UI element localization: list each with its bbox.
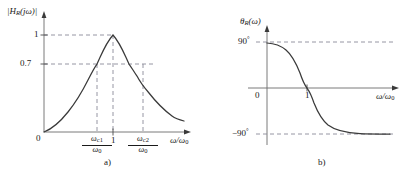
y-axis-label-a-pre: |H (7, 6, 16, 16)
y-tick-label-plus90-b: 90° (238, 36, 250, 46)
x-axis-label-a-sub: 0 (185, 138, 188, 145)
y-tick-label-minus90-text-b: −90 (232, 128, 246, 138)
degree-symbol-minus90-b: ° (246, 127, 249, 134)
curve-phase-b (267, 43, 390, 134)
x-tick-label-wc1-den-a: ω0 (82, 146, 112, 156)
axis-x-a (44, 130, 191, 135)
y-tick-label-plus90-text-b: 90 (238, 36, 247, 46)
x-tick-label-1-a: 1 (111, 136, 116, 145)
x-axis-label-a-main: ω/ω (170, 135, 185, 145)
panel-caption-a: a) (104, 157, 111, 167)
x-axis-label-a: ω/ω0 (170, 136, 188, 146)
x-tick-label-wc1-a: ωc1 ω0 (82, 135, 112, 155)
panel-caption-b: b) (318, 157, 326, 167)
x-tick-label-1-b: 1 (305, 91, 310, 100)
y-axis-label-a-mid: (jω)| (20, 6, 37, 16)
y-tick-label-07-a: 0.7 (20, 59, 31, 68)
axis-y-a (42, 11, 47, 132)
y-axis-label-b: θR(ω) (240, 17, 261, 27)
figure-root: |HR(jω)| 1 0.7 0 ωc1 ω0 1 ωc2 ω0 ω/ω0 a) (0, 0, 416, 175)
chart-panel-b: θR(ω) 90° −90° 0 1 ω/ω0 b) (208, 0, 416, 175)
y-axis-label-a: |HR(jω)| (7, 7, 37, 17)
x-axis-label-b: ω/ω0 (376, 92, 394, 102)
chart-panel-a: |HR(jω)| 1 0.7 0 ωc1 ω0 1 ωc2 ω0 ω/ω0 a) (0, 0, 208, 175)
origin-label-b: 0 (255, 91, 260, 100)
x-tick-label-wc2-a: ωc2 ω0 (128, 135, 158, 155)
curve-magnitude-a (44, 35, 184, 132)
y-tick-label-1-a: 1 (34, 30, 39, 39)
axis-x-b (248, 86, 399, 91)
y-tick-label-minus90-b: −90° (232, 128, 249, 138)
x-axis-label-b-sub: 0 (391, 94, 394, 101)
degree-symbol-plus90-b: ° (247, 35, 250, 42)
y-axis-label-b-mid: (ω) (248, 16, 260, 26)
x-tick-label-wc2-num-a: ωc2 (128, 135, 158, 146)
x-tick-label-wc1-num-a: ωc1 (82, 135, 112, 146)
x-tick-label-wc2-den-a: ω0 (128, 146, 158, 156)
origin-label-a: 0 (36, 134, 41, 143)
x-axis-label-b-main: ω/ω (376, 91, 391, 101)
